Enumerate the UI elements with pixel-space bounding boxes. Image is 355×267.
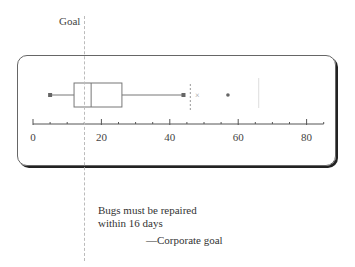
box-plot: ×: [48, 83, 230, 107]
tick-label: 0: [30, 131, 36, 143]
iqr-box: [74, 83, 122, 107]
reference-lines: [190, 78, 258, 110]
outlier-dot: [226, 93, 230, 97]
x-axis: 020406080: [30, 119, 323, 143]
note-attribution: —Corporate goal: [146, 234, 223, 246]
goal-note: Bugs must be repaired within 16 days: [98, 204, 197, 230]
outlier-x: ×: [195, 91, 200, 100]
tick-label: 40: [164, 131, 176, 143]
note-line-2: within 16 days: [98, 217, 197, 230]
tick-label: 80: [301, 131, 313, 143]
tick-label: 60: [233, 131, 245, 143]
note-line-1: Bugs must be repaired: [98, 204, 197, 217]
tick-label: 20: [96, 131, 108, 143]
whisker-high-marker: [181, 93, 185, 97]
goal-reference-line: [84, 16, 85, 261]
whisker-low-marker: [48, 93, 52, 97]
